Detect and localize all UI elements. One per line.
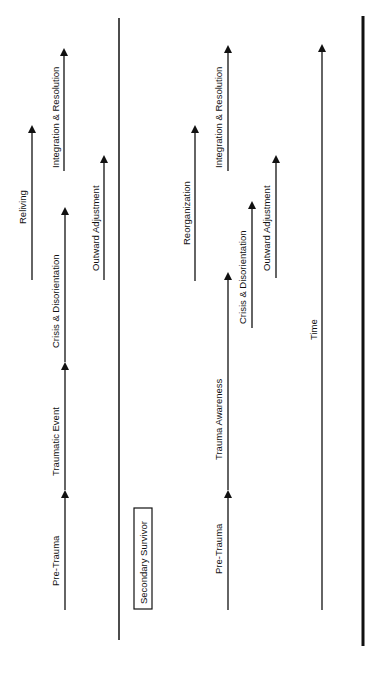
reorganization-label: Reorganization [181,181,192,245]
trauma-awareness-label: Trauma Awareness [213,378,224,460]
secondary-crisis-label: Crisis & Disorientation [237,231,248,324]
primary-pretrauma-label: Pre-Trauma [50,535,61,586]
time-axis-label: Time [308,319,319,340]
secondary-outward-label: Outward Adjustment [261,185,272,271]
primary-survivor-section: Pre-Trauma Traumatic Event Crisis & Diso… [17,52,104,610]
secondary-survivor-title: Secondary Survivor [138,521,149,604]
primary-traumatic-event-label: Traumatic Event [50,407,61,476]
secondary-survivor-section: Secondary Survivor Pre-Trauma Trauma Awa… [134,48,322,610]
primary-crisis-label: Crisis & Disorientation [50,255,61,348]
secondary-pretrauma-label: Pre-Trauma [213,523,224,574]
reliving-label: Reliving [17,190,28,224]
primary-outward-label: Outward Adjustment [90,185,101,271]
secondary-integration-label: Integration & Resolution [213,67,224,168]
trauma-phases-diagram: Pre-Trauma Traumatic Event Crisis & Diso… [0,0,365,688]
primary-integration-label: Integration & Resolution [50,67,61,168]
